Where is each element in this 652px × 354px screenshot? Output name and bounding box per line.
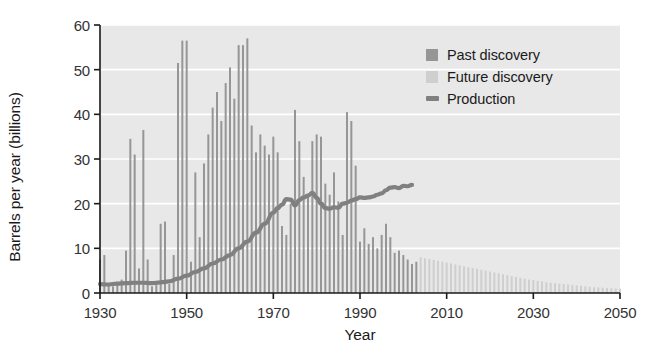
bar	[420, 257, 422, 293]
bar	[142, 130, 144, 293]
bar	[485, 271, 487, 293]
bar	[298, 141, 300, 293]
bar	[151, 286, 153, 293]
bar	[324, 184, 326, 293]
bar	[554, 283, 556, 293]
bar	[580, 286, 582, 293]
bar	[441, 262, 443, 293]
bar	[467, 267, 469, 293]
bar	[541, 281, 543, 293]
bar	[411, 264, 413, 293]
legend-square-marker-icon	[426, 71, 438, 83]
bar	[190, 262, 192, 293]
bar	[532, 280, 534, 293]
bar	[203, 163, 205, 293]
bar	[246, 38, 248, 293]
bar	[489, 272, 491, 293]
bar	[589, 287, 591, 293]
bar	[493, 272, 495, 293]
bar	[389, 237, 391, 293]
bar	[376, 248, 378, 293]
bar	[597, 287, 599, 293]
bar	[476, 269, 478, 293]
bar	[242, 45, 244, 293]
bar	[459, 265, 461, 293]
bar	[498, 273, 500, 293]
bar	[511, 276, 513, 293]
bar	[281, 226, 283, 293]
bar	[307, 195, 309, 293]
bar	[337, 201, 339, 293]
bar	[251, 126, 253, 294]
bar	[125, 251, 127, 293]
bar	[454, 264, 456, 293]
legend-item-label: Future discovery	[447, 69, 553, 85]
bar	[545, 282, 547, 293]
bar	[225, 83, 227, 293]
bar	[550, 283, 552, 293]
bar	[576, 285, 578, 293]
bar	[602, 288, 604, 293]
plot-area	[0, 0, 652, 354]
bar	[381, 235, 383, 293]
legend-square-marker-icon	[426, 49, 438, 61]
bar	[316, 134, 318, 293]
bar	[303, 177, 305, 293]
bar	[112, 286, 114, 293]
bar	[398, 251, 400, 293]
bar	[134, 155, 136, 293]
bar	[537, 281, 539, 293]
bar	[368, 244, 370, 293]
legend-line-marker-icon	[426, 96, 439, 101]
bar	[177, 63, 179, 293]
bar	[372, 237, 374, 293]
bar	[567, 285, 569, 293]
bar	[155, 284, 157, 293]
bar	[415, 262, 417, 293]
bar	[311, 141, 313, 293]
bar	[446, 263, 448, 293]
bar	[129, 139, 131, 293]
bar	[571, 285, 573, 293]
bar	[394, 253, 396, 293]
bar	[584, 286, 586, 293]
bar	[480, 270, 482, 293]
bar	[506, 275, 508, 293]
bar	[194, 172, 196, 293]
bar	[433, 260, 435, 293]
bar	[563, 284, 565, 293]
bar	[342, 235, 344, 293]
bar	[593, 287, 595, 293]
bar	[428, 259, 430, 293]
legend-item: Future discovery	[426, 67, 553, 86]
legend-item: Production	[426, 89, 553, 108]
bar	[385, 224, 387, 293]
bar	[264, 146, 266, 293]
bar	[402, 255, 404, 293]
bar	[437, 261, 439, 293]
legend-item-label: Past discovery	[447, 47, 540, 63]
bar	[181, 41, 183, 293]
bar	[199, 237, 201, 293]
bar	[173, 255, 175, 293]
chart-figure: Barrels per year (billions) 010203040506…	[0, 0, 652, 354]
bar	[350, 121, 352, 293]
legend-item-label: Production	[447, 91, 515, 107]
bar	[168, 284, 170, 293]
bar	[277, 152, 279, 293]
bar	[320, 137, 322, 293]
bar	[363, 228, 365, 293]
bar	[424, 258, 426, 293]
bar	[472, 268, 474, 293]
bar	[147, 260, 149, 294]
bar	[519, 278, 521, 293]
bar	[220, 121, 222, 293]
bar	[355, 166, 357, 293]
bar	[255, 152, 257, 293]
bar	[229, 67, 231, 293]
bar	[186, 41, 188, 293]
chart-legend: Past discoveryFuture discoveryProduction	[426, 45, 553, 108]
bar	[359, 242, 361, 293]
bar	[463, 266, 465, 293]
legend-item: Past discovery	[426, 45, 553, 64]
